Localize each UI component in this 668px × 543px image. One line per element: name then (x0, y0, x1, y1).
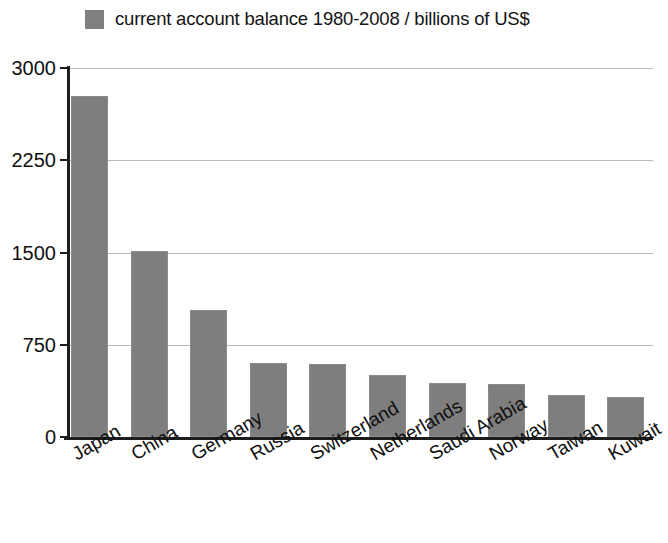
x-axis-tick-label: China (128, 422, 181, 463)
bar-chart: current account balance 1980-2008 / bill… (0, 0, 668, 543)
x-axis-tick-label: Kuwait (605, 418, 664, 463)
x-axis-tick-label: Japan (69, 421, 123, 463)
x-axis-labels: JapanChinaGermanyRussiaSwitzerlandNether… (0, 0, 668, 543)
x-axis-tick-label: Taiwan (545, 417, 606, 463)
